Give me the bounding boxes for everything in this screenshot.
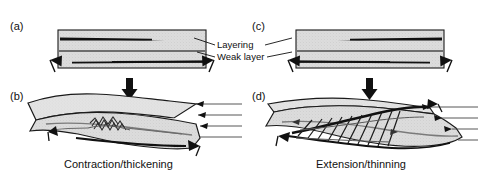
layering-leader-right	[265, 38, 292, 45]
panel-c: (c)	[252, 20, 452, 72]
panel-b: (b)	[10, 78, 242, 170]
panel-c-letter: (c)	[252, 20, 265, 32]
panel-a-letter: (a)	[10, 20, 23, 32]
panel-d-letter: (d)	[252, 90, 265, 102]
weak-layer-leader-right	[267, 52, 292, 57]
panel-a: (a)	[10, 20, 214, 72]
panel-a-block	[58, 30, 206, 68]
panel-b-letter: (b)	[10, 90, 23, 102]
panel-a-right-arrow	[202, 56, 214, 73]
panel-c-right-arrow	[440, 56, 452, 73]
panel-b-caption: Contraction/thickening	[64, 158, 173, 170]
panel-a-left-arrow	[50, 56, 62, 73]
panel-b-reference-lines	[196, 104, 242, 137]
layering-label: Layering	[217, 39, 253, 50]
panel-d-down-arrow	[362, 78, 378, 100]
weak-layer-label: Weak layer	[217, 51, 264, 62]
panel-d-left-corner-arrow	[276, 132, 290, 146]
panel-d: (d)	[252, 78, 478, 170]
panel-c-left-arrow	[288, 56, 300, 73]
panel-c-block	[296, 30, 444, 68]
structural-geology-figure: (a)	[0, 0, 484, 179]
panel-d-caption: Extension/thinning	[316, 158, 406, 170]
